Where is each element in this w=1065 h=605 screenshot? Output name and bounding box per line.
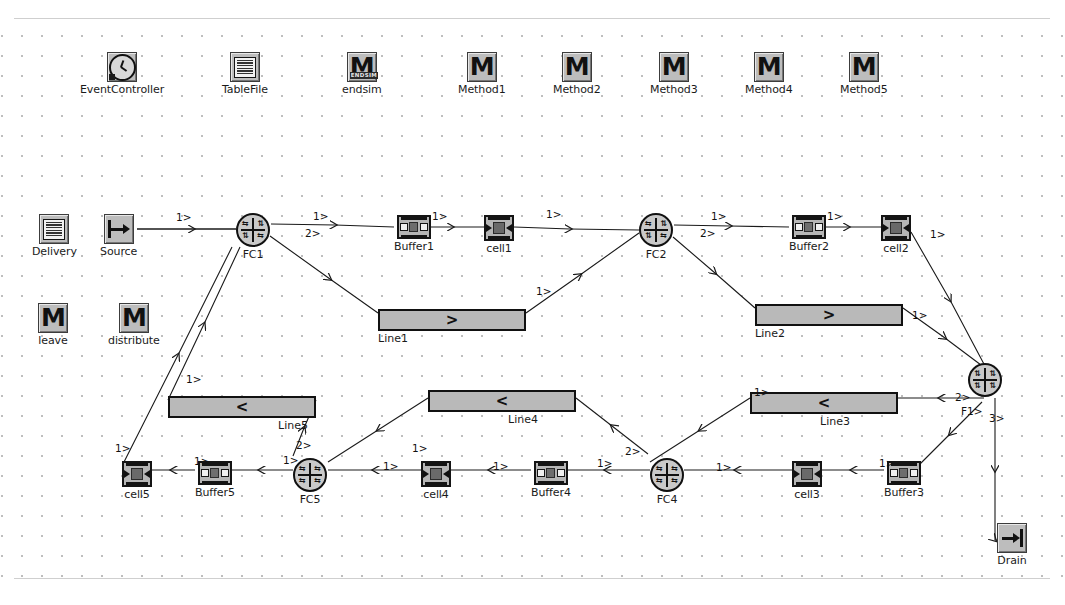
node-leave[interactable]: M leave <box>38 303 68 347</box>
cell-icon <box>122 461 152 487</box>
method-m-glyph-icon: M <box>41 305 65 330</box>
node-method2[interactable]: M Method2 <box>553 52 601 96</box>
cell-icon <box>484 215 514 241</box>
port-label: 1> <box>879 458 894 469</box>
node-label: cell3 <box>794 489 819 501</box>
node-label: Method4 <box>745 84 793 96</box>
node-label: FC4 <box>657 494 678 506</box>
line-direction-icon: > <box>823 308 836 323</box>
method-endsim-icon: M ENDSIM <box>347 52 377 82</box>
method-icon: M <box>659 52 689 82</box>
node-endsim[interactable]: M ENDSIM endsim <box>342 52 382 96</box>
line-direction-icon: < <box>818 396 831 411</box>
port-label: 3> <box>989 413 1004 424</box>
method-icon: M <box>849 52 879 82</box>
node-line4-label: Line4 <box>508 414 538 426</box>
flow-control-icon: ⇆⇅ ⇅⇆ <box>639 213 673 247</box>
node-cell4[interactable]: cell4 <box>421 461 451 501</box>
port-label: 1> <box>115 443 130 454</box>
node-label: Buffer2 <box>789 241 829 253</box>
node-line5[interactable]: < <box>168 396 316 418</box>
port-label: 1> <box>597 458 612 469</box>
node-drain[interactable]: Drain <box>997 523 1027 567</box>
canvas-bottom-divider <box>14 578 1050 579</box>
table-icon <box>39 214 69 244</box>
method-m-glyph-icon: M <box>662 54 686 79</box>
node-line1-label: Line1 <box>378 333 408 345</box>
node-method3[interactable]: M Method3 <box>650 52 698 96</box>
node-label: FC2 <box>646 249 667 261</box>
line-direction-icon: > <box>446 313 459 328</box>
node-cell1[interactable]: cell1 <box>484 215 514 255</box>
port-label: 1> <box>176 212 191 223</box>
port-label: 1> <box>313 211 328 222</box>
node-line3[interactable]: < <box>750 392 898 414</box>
method-m-glyph-icon: M <box>122 305 146 330</box>
node-line4[interactable]: < <box>428 390 576 412</box>
node-cell3[interactable]: cell3 <box>792 461 822 501</box>
node-label: Drain <box>997 555 1026 567</box>
port-label: 1> <box>912 310 927 321</box>
port-label: 2> <box>296 440 311 451</box>
method-icon: M <box>467 52 497 82</box>
node-source[interactable]: Source <box>100 214 137 258</box>
node-label: leave <box>38 335 67 347</box>
table-icon <box>230 52 260 82</box>
line-direction-icon: < <box>496 394 509 409</box>
buffer-icon <box>534 461 568 485</box>
node-fc1[interactable]: ⇆⇅ ⇅⇆ FC1 <box>236 213 270 261</box>
port-label: F1> <box>961 406 983 417</box>
canvas-top-divider <box>14 18 1050 19</box>
node-method4[interactable]: M Method4 <box>745 52 793 96</box>
flow-control-icon: ⇅⇅ ⇅⇅ <box>968 363 1002 397</box>
port-label: 1> <box>186 374 201 385</box>
port-label: 1> <box>493 461 508 472</box>
flow-control-icon: ⇆⇅ ⇅⇆ <box>236 213 270 247</box>
node-distribute[interactable]: M distribute <box>108 303 160 347</box>
port-label: 2> <box>700 228 715 239</box>
node-fc2[interactable]: ⇆⇅ ⇅⇆ FC2 <box>639 213 673 261</box>
node-buffer4[interactable]: Buffer4 <box>531 461 571 499</box>
port-label: 1> <box>930 229 945 240</box>
node-label: Method1 <box>458 84 506 96</box>
node-label: cell5 <box>124 489 149 501</box>
node-line2[interactable]: > <box>755 304 903 326</box>
node-label: TableFile <box>222 84 268 96</box>
node-method5[interactable]: M Method5 <box>840 52 888 96</box>
node-fc4[interactable]: ⇆⇆ ⇆⇆ FC4 <box>650 458 684 506</box>
method-m-glyph-icon: M <box>565 54 589 79</box>
node-method1[interactable]: M Method1 <box>458 52 506 96</box>
node-line5-label: Line5 <box>278 420 308 432</box>
node-line1[interactable]: > <box>378 309 526 331</box>
node-label: Delivery <box>32 246 77 258</box>
node-label: Source <box>100 246 137 258</box>
node-delivery[interactable]: Delivery <box>32 214 77 258</box>
method-icon: M <box>38 303 68 333</box>
node-label: cell1 <box>486 243 511 255</box>
node-tablefile[interactable]: TableFile <box>222 52 268 96</box>
cell-icon <box>421 461 451 487</box>
node-label: FC5 <box>300 494 321 506</box>
method-icon: M <box>754 52 784 82</box>
node-label: Method2 <box>553 84 601 96</box>
port-label: 1> <box>412 443 427 454</box>
cell-icon <box>881 215 911 241</box>
node-line3-label: Line3 <box>820 416 850 428</box>
port-label: 1> <box>716 462 731 473</box>
node-cell2[interactable]: cell2 <box>881 215 911 255</box>
node-label: distribute <box>108 335 160 347</box>
port-label: 1> <box>536 286 551 297</box>
node-label: Method5 <box>840 84 888 96</box>
node-label: EventController <box>80 84 164 96</box>
node-label: Buffer1 <box>394 241 434 253</box>
node-buffer2[interactable]: Buffer2 <box>789 215 829 253</box>
node-label: endsim <box>342 84 382 96</box>
method-m-glyph-icon: M <box>757 54 781 79</box>
method-icon: M <box>119 303 149 333</box>
node-cell5[interactable]: cell5 <box>122 461 152 501</box>
node-buffer1[interactable]: Buffer1 <box>394 215 434 253</box>
node-f1[interactable]: ⇅⇅ ⇅⇅ <box>968 363 1002 397</box>
port-label: 1> <box>711 211 726 222</box>
endsim-badge-icon: ENDSIM <box>350 72 378 79</box>
node-eventcontroller[interactable]: EventController <box>80 52 164 96</box>
